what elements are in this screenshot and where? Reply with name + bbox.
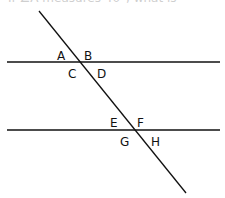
angle-label-a: A — [57, 49, 66, 63]
angle-label-e: E — [110, 116, 118, 130]
angle-label-d: D — [97, 67, 106, 81]
angle-label-c: C — [68, 67, 76, 81]
angle-label-f: F — [137, 116, 144, 130]
angle-label-g: G — [120, 135, 129, 149]
angle-label-b: B — [84, 49, 92, 63]
transversal-line — [39, 11, 186, 193]
parallel-lines-diagram: A B C D E F G H — [0, 0, 225, 198]
angle-label-h: H — [151, 135, 160, 149]
